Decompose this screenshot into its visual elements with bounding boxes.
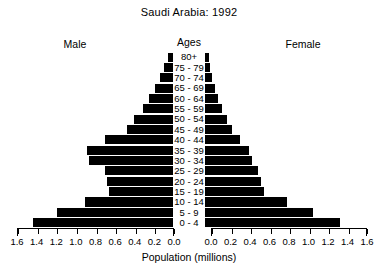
left-x-axis	[17, 228, 174, 236]
bar-rows: 80+75 - 7970 - 7465 - 6960 - 6455 - 5950…	[0, 52, 378, 228]
axis-tick-label: 0.4	[243, 236, 256, 247]
age-group-label: 20 - 24	[0, 176, 378, 187]
age-group-label: 60 - 64	[0, 93, 378, 104]
axis-tick-label: 0.8	[89, 236, 102, 247]
axis-tick-label: 1.4	[341, 236, 354, 247]
age-group-label: 0 - 4	[0, 217, 378, 228]
axis-tick-label: 0.0	[204, 236, 217, 247]
axis-tick	[77, 229, 78, 234]
right-x-axis	[211, 228, 367, 236]
age-group-label: 45 - 49	[0, 124, 378, 135]
axis-tick	[271, 229, 272, 234]
female-series-label: Female	[228, 38, 378, 50]
axis-tick-label: 1.0	[69, 236, 82, 247]
axis-tick-label: 1.2	[321, 236, 334, 247]
axis-tick-label: 0.6	[263, 236, 276, 247]
axis-tick-label: 1.0	[302, 236, 315, 247]
axis-tick	[116, 229, 117, 234]
age-group-label: 10 - 14	[0, 196, 378, 207]
axis-tick	[38, 229, 39, 234]
axis-tick	[174, 229, 175, 234]
axis-tick-label: 1.4	[30, 236, 43, 247]
axis-tick-label: 0.2	[148, 236, 161, 247]
axis-tick	[329, 229, 330, 234]
age-group-label: 35 - 39	[0, 145, 378, 156]
age-group-label: 30 - 34	[0, 155, 378, 166]
axis-tick-label: 0.6	[109, 236, 122, 247]
axis-tick	[97, 229, 98, 234]
age-group-label: 5 - 9	[0, 207, 378, 218]
population-pyramid-chart: Saudi Arabia: 1992 Male Ages Female 80+7…	[0, 0, 378, 280]
age-group-label: 25 - 29	[0, 165, 378, 176]
axis-tick	[232, 229, 233, 234]
axis-tick	[349, 229, 350, 234]
axis-tick	[367, 229, 368, 234]
age-group-label: 15 - 19	[0, 186, 378, 197]
left-x-tick-labels: 1.61.41.21.00.80.60.40.20.0	[17, 236, 174, 248]
chart-title: Saudi Arabia: 1992	[0, 6, 378, 18]
age-group-label: 65 - 69	[0, 82, 378, 93]
age-group-label: 75 - 79	[0, 62, 378, 73]
axis-tick	[18, 229, 19, 234]
plot-area: 80+75 - 7970 - 7465 - 6960 - 6455 - 5950…	[0, 52, 378, 228]
axis-tick-label: 0.8	[282, 236, 295, 247]
axis-tick-label: 1.6	[10, 236, 23, 247]
age-group-label: 80+	[0, 51, 378, 62]
axis-tick-label: 0.2	[224, 236, 237, 247]
axis-tick-label: 1.6	[360, 236, 373, 247]
right-x-tick-labels: 0.00.20.40.60.81.01.21.41.6	[211, 236, 367, 248]
axis-tick	[155, 229, 156, 234]
age-group-label: 55 - 59	[0, 103, 378, 114]
axis-tick-label: 0.0	[167, 236, 180, 247]
age-group-label: 70 - 74	[0, 72, 378, 83]
axis-tick	[251, 229, 252, 234]
age-group-label: 50 - 54	[0, 113, 378, 124]
axis-tick-label: 1.2	[50, 236, 63, 247]
age-group-label: 40 - 44	[0, 134, 378, 145]
axis-tick-label: 0.4	[128, 236, 141, 247]
axis-tick	[57, 229, 58, 234]
axis-tick	[290, 229, 291, 234]
axis-tick	[136, 229, 137, 234]
x-axis-label: Population (millions)	[0, 251, 378, 263]
axis-tick	[212, 229, 213, 234]
pyramid-row: 0 - 4	[0, 218, 378, 228]
axis-tick	[310, 229, 311, 234]
